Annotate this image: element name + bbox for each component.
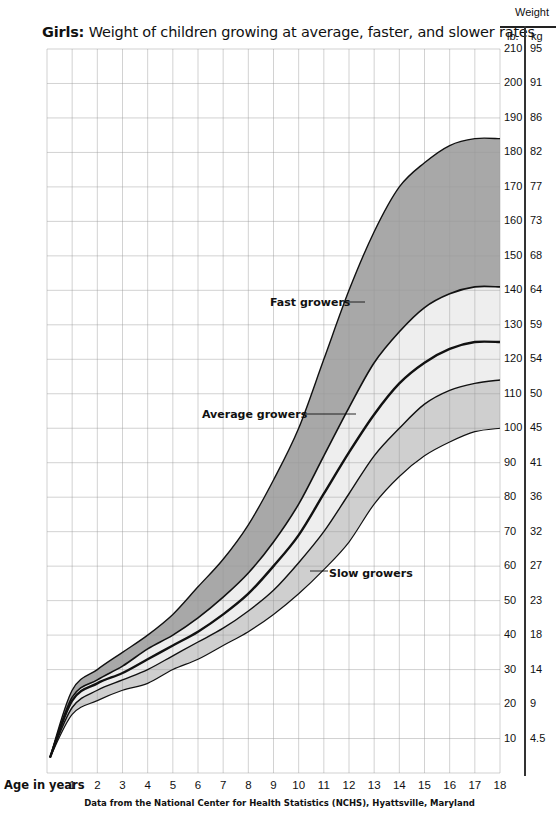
growth-chart-plot bbox=[0, 0, 559, 814]
y-tick-lb: 150 bbox=[504, 249, 524, 261]
y-tick-lb: 30 bbox=[504, 663, 524, 675]
growth-bands bbox=[50, 138, 500, 757]
y-tick-kg: 45 bbox=[530, 421, 542, 433]
x-tick: 13 bbox=[364, 779, 384, 791]
y-tick-lb: 170 bbox=[504, 180, 524, 192]
y-tick-kg: 41 bbox=[530, 456, 542, 468]
y-tick-kg: 4.5 bbox=[530, 732, 545, 744]
y-tick-lb: 200 bbox=[504, 76, 524, 88]
y-tick-kg: 59 bbox=[530, 318, 542, 330]
y-tick-lb: 40 bbox=[504, 628, 524, 640]
x-tick: 7 bbox=[213, 779, 233, 791]
x-tick: 14 bbox=[389, 779, 409, 791]
y-tick-kg: 54 bbox=[530, 352, 542, 364]
x-tick: 15 bbox=[415, 779, 435, 791]
y-tick-lb: 90 bbox=[504, 456, 524, 468]
y-tick-kg: 91 bbox=[530, 76, 542, 88]
y-tick-kg: 64 bbox=[530, 283, 542, 295]
y-tick-lb: 180 bbox=[504, 145, 524, 157]
y-tick-kg: 86 bbox=[530, 111, 542, 123]
x-tick: 18 bbox=[490, 779, 510, 791]
x-tick: 8 bbox=[238, 779, 258, 791]
y-tick-kg: 82 bbox=[530, 145, 542, 157]
y-tick-lb: 120 bbox=[504, 352, 524, 364]
y-tick-lb: 210 bbox=[504, 42, 524, 54]
x-tick: 16 bbox=[440, 779, 460, 791]
x-axis-label: Age in years bbox=[4, 778, 85, 792]
y-tick-kg: 73 bbox=[530, 214, 542, 226]
x-tick: 9 bbox=[264, 779, 284, 791]
x-tick: 11 bbox=[314, 779, 334, 791]
y-tick-lb: 10 bbox=[504, 732, 524, 744]
y-tick-lb: 130 bbox=[504, 318, 524, 330]
y-tick-lb: 160 bbox=[504, 214, 524, 226]
y-tick-kg: 95 bbox=[530, 42, 542, 54]
x-tick: 12 bbox=[339, 779, 359, 791]
fast-growers-label: Fast growers bbox=[270, 296, 350, 309]
source-note: Data from the National Center for Health… bbox=[0, 798, 559, 808]
y-tick-lb: 100 bbox=[504, 421, 524, 433]
y-tick-lb: 190 bbox=[504, 111, 524, 123]
y-tick-kg: 32 bbox=[530, 525, 542, 537]
y-tick-kg: 77 bbox=[530, 180, 542, 192]
y-tick-kg: 18 bbox=[530, 628, 542, 640]
x-tick: 17 bbox=[465, 779, 485, 791]
y-tick-lb: 80 bbox=[504, 490, 524, 502]
x-tick: 2 bbox=[87, 779, 107, 791]
x-tick: 4 bbox=[138, 779, 158, 791]
y-tick-kg: 23 bbox=[530, 594, 542, 606]
average-growers-label: Average growers bbox=[202, 408, 307, 421]
y-tick-lb: 110 bbox=[504, 387, 524, 399]
y-tick-kg: 27 bbox=[530, 559, 542, 571]
y-tick-lb: 140 bbox=[504, 283, 524, 295]
x-tick: 10 bbox=[289, 779, 309, 791]
y-tick-kg: 14 bbox=[530, 663, 542, 675]
x-tick: 5 bbox=[163, 779, 183, 791]
slow-growers-label: Slow growers bbox=[329, 567, 413, 580]
x-tick: 6 bbox=[188, 779, 208, 791]
x-tick: 3 bbox=[113, 779, 133, 791]
y-tick-kg: 9 bbox=[530, 697, 536, 709]
y-tick-lb: 20 bbox=[504, 697, 524, 709]
y-tick-lb: 60 bbox=[504, 559, 524, 571]
y-tick-lb: 50 bbox=[504, 594, 524, 606]
y-tick-lb: 70 bbox=[504, 525, 524, 537]
y-tick-kg: 36 bbox=[530, 490, 542, 502]
y-tick-kg: 50 bbox=[530, 387, 542, 399]
y-tick-kg: 68 bbox=[530, 249, 542, 261]
